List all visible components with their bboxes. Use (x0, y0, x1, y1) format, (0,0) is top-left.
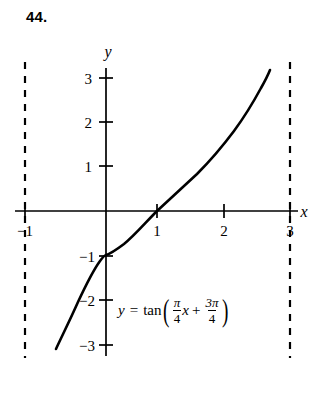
y-axis-label: y (102, 43, 112, 61)
equation-variable: x (182, 303, 189, 318)
x-tick-label--1: −1 (17, 223, 33, 239)
y-tick-label--2: −2 (79, 293, 95, 309)
equation-lhs: y (118, 303, 125, 318)
equation-term1-numerator: π (173, 296, 182, 310)
equation-plus: + (192, 303, 200, 318)
equation-open-paren: ( (163, 298, 169, 323)
equation-term2-numerator: 3π (204, 296, 219, 310)
equation-term1-denominator: 4 (173, 310, 182, 325)
x-axis-label: x (299, 203, 307, 220)
equation-fraction-coefficient: π 4 (173, 296, 182, 325)
y-tick-label--1: −1 (79, 249, 95, 265)
equation-close-paren: ) (222, 298, 228, 323)
x-tick-label-1: 1 (153, 223, 161, 239)
graph-svg: x y −1 1 2 3 3 2 1 −1 −2 −3 (0, 0, 319, 393)
x-tick-label-2: 2 (220, 223, 228, 239)
equation-term2-denominator: 4 (208, 310, 217, 325)
equation-label: y = tan ( π 4 x + 3π 4 ) (118, 296, 231, 325)
figure-page: 44. x (0, 0, 319, 393)
x-tick-label-3: 3 (286, 223, 294, 239)
equation-function: tan (143, 303, 161, 318)
y-tick-label-1: 1 (85, 159, 93, 175)
y-tick-label--3: −3 (79, 338, 95, 354)
equation-equals: = (130, 303, 138, 318)
graph-figure: x y −1 1 2 3 3 2 1 −1 −2 −3 (0, 0, 319, 393)
y-tick-label-3: 3 (85, 71, 93, 87)
equation-fraction-phase: 3π 4 (204, 296, 219, 325)
y-tick-label-2: 2 (85, 115, 93, 131)
